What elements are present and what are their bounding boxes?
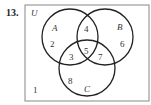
region-a-and-c: 3: [69, 52, 74, 62]
region-a-only: 2: [50, 39, 55, 49]
region-outside: 1: [33, 85, 38, 95]
region-a-and-b: 4: [84, 24, 89, 34]
region-c-only: 8: [68, 76, 73, 86]
region-b-only: 6: [120, 39, 125, 49]
set-a-label: A: [51, 23, 58, 33]
set-b-label: B: [117, 22, 123, 32]
set-c-label: C: [84, 84, 91, 94]
region-a-b-c: 5: [84, 46, 89, 56]
venn-diagram: U A B C 1 2 3 4 5 6 7 8: [0, 0, 151, 105]
universe-label: U: [31, 8, 38, 18]
region-b-and-c: 7: [98, 52, 103, 62]
circle-b: [77, 9, 133, 65]
